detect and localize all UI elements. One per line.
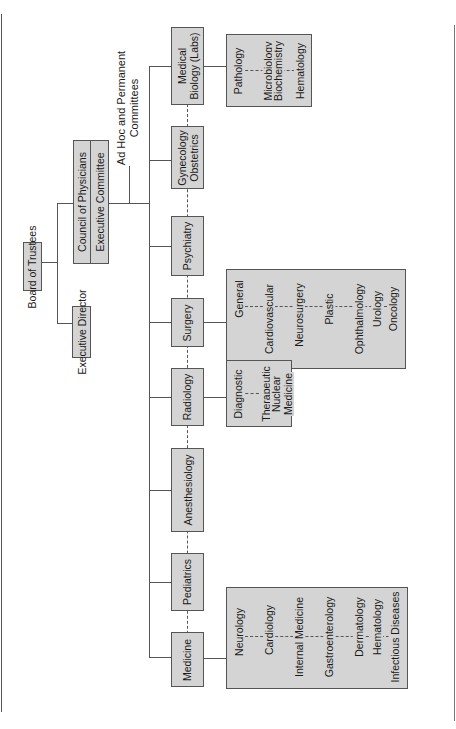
dept-pediatrics: Pediatrics xyxy=(171,553,204,611)
sub-hematology-lab: Hematology xyxy=(290,34,310,107)
sub-general-label: General xyxy=(233,279,245,318)
sub-neurosurgery: Neurosurgery xyxy=(288,269,310,361)
sub-hematology-lab-label: Hematology xyxy=(294,41,306,99)
sub-plastic: Plastic xyxy=(318,269,340,349)
dept-pediatrics-label: Pediatrics xyxy=(182,559,194,605)
branch-gynecology xyxy=(149,160,171,161)
dept-anesthesiology: Anesthesiology xyxy=(171,448,204,532)
board-of-trustees-label: Board of Trustees xyxy=(27,225,39,308)
page-border-left xyxy=(1,14,2,712)
sub-hematology-label: Hematology xyxy=(371,598,383,656)
executive-committee-label: Executive Committee xyxy=(94,152,106,251)
sub-oncology: Oncology xyxy=(382,269,404,349)
sub-internal-medicine-label: Internal Medicine xyxy=(293,596,305,678)
connector-surgery-subs xyxy=(204,322,227,323)
branch-medical-biology xyxy=(149,66,171,67)
sub-dermatology-label: Dermatology xyxy=(353,596,365,658)
sub-plastic-label: Plastic xyxy=(323,293,335,326)
sub-infectious-diseases-label: Infectious Diseases xyxy=(389,590,401,683)
branch-medicine xyxy=(149,657,171,658)
sub-cardiovascular: Cardiovascular xyxy=(258,269,280,369)
branch-pediatrics xyxy=(149,582,171,583)
branch-surgery xyxy=(149,322,171,323)
dept-medical-biology-label: MedicalBiology (Labs) xyxy=(176,32,200,99)
branch-anesthesiology xyxy=(149,490,171,491)
branch-psychiatry xyxy=(149,246,171,247)
sub-biochemistry: Biochemistry xyxy=(268,34,288,107)
connector-to-exec-director xyxy=(57,323,72,324)
connector-to-council xyxy=(57,203,73,204)
dept-anesthesiology-label: Anesthesiology xyxy=(182,454,194,525)
dept-medicine: Medicine xyxy=(171,632,204,687)
council-cell: Council of Physicians xyxy=(73,140,91,264)
sub-neurosurgery-label: Neurosurgery xyxy=(293,282,305,348)
dept-gynecology-label: GynecologyObstetrics xyxy=(176,130,200,185)
sub-diagnostic-label: Diagnostic xyxy=(232,368,244,419)
sub-pathology: Pathology xyxy=(228,34,248,107)
connector-board xyxy=(42,262,57,263)
sub-nuclear-medicine: NuclearMedicine xyxy=(272,360,292,427)
department-bus xyxy=(149,66,150,658)
sub-oncology-label: Oncology xyxy=(387,286,399,332)
sub-ophthalmology-label: Ophthalmology xyxy=(353,283,365,356)
dept-radiology-label: Radiology xyxy=(182,374,194,421)
sub-cardiovascular-label: Cardiovascular xyxy=(263,283,275,355)
dept-psychiatry: Psychiatry xyxy=(171,216,204,276)
dept-psychiatry-label: Psychiatry xyxy=(182,222,194,270)
connector-trunk xyxy=(57,203,58,324)
sub-gastroenterology-label: Gastroenterology xyxy=(323,596,335,679)
board-of-trustees-box: Board of Trustees xyxy=(23,242,42,291)
sub-neurology-label: Neurology xyxy=(233,607,245,657)
dept-surgery: Surgery xyxy=(171,298,204,347)
connector-medbio-subs xyxy=(204,66,227,67)
council-of-physicians-label: Council of Physicians xyxy=(76,152,88,252)
dept-medical-biology: MedicalBiology (Labs) xyxy=(171,27,204,105)
sub-diagnostic: Diagnostic xyxy=(228,360,248,427)
connector-committees xyxy=(129,166,130,203)
connector-council-bus xyxy=(109,203,149,204)
sub-general: General xyxy=(228,269,250,329)
sub-biochemistry-label: Biochemistry xyxy=(272,39,284,101)
sub-internal-medicine: Internal Medicine xyxy=(288,587,310,687)
executive-director-label: Executive Director xyxy=(76,289,88,374)
dept-surgery-label: Surgery xyxy=(182,304,194,341)
sub-pathology-label: Pathology xyxy=(232,46,244,95)
sub-infectious-diseases: Infectious Diseases xyxy=(384,587,406,687)
connector-radiology-subs xyxy=(204,397,227,398)
committees-text: Ad Hoc and PermanentCommittees xyxy=(115,50,141,164)
connector-medicine-subs xyxy=(204,658,227,659)
exec-committee-cell: Executive Committee xyxy=(91,140,109,264)
dept-medicine-label: Medicine xyxy=(182,638,194,680)
executive-director-box: Executive Director xyxy=(72,306,91,358)
page-border-right xyxy=(454,25,455,721)
dept-gynecology-obstetrics: GynecologyObstetrics xyxy=(171,126,204,189)
branch-radiology xyxy=(149,397,171,398)
sub-cardiology-label: Cardiology xyxy=(263,603,275,655)
sub-nuclear-medicine-label: NuclearMedicine xyxy=(270,371,294,415)
sub-gastroenterology: Gastroenterology xyxy=(318,587,340,687)
sub-cardiology: Cardiology xyxy=(258,587,280,672)
dept-radiology: Radiology xyxy=(171,368,204,426)
committees-label: Ad Hoc and PermanentCommittees xyxy=(114,50,142,165)
sub-neurology: Neurology xyxy=(228,587,250,677)
